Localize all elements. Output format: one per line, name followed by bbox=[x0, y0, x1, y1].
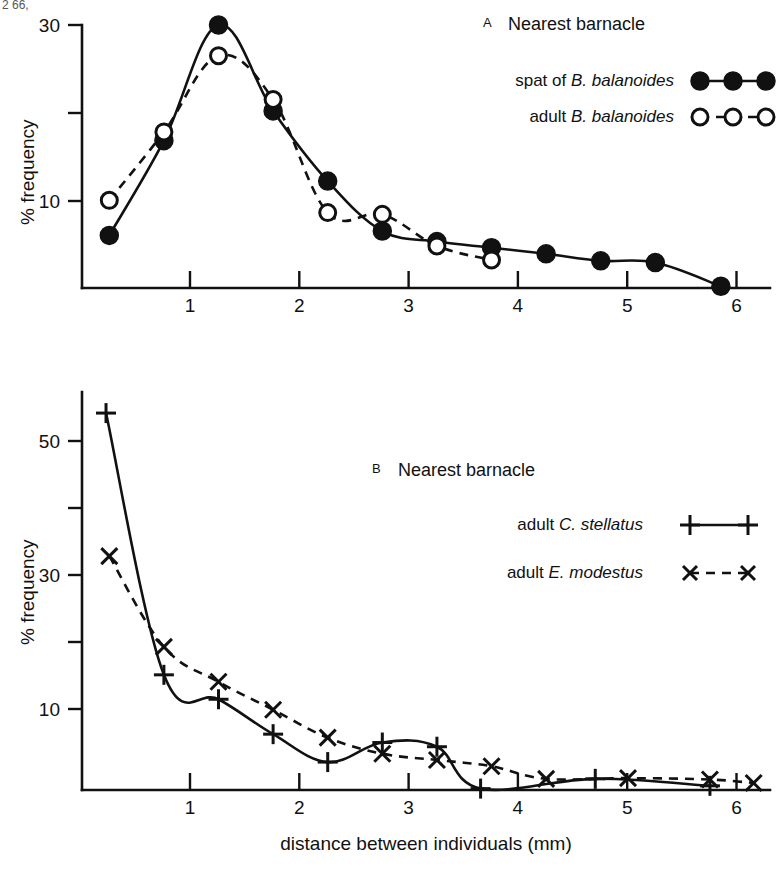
data-point-cross bbox=[156, 639, 172, 655]
data-point-filled-circle bbox=[537, 245, 555, 263]
panel-b-legend-label-0: adult C. stellatus bbox=[517, 515, 643, 534]
data-point-plus bbox=[318, 752, 338, 772]
data-point-open-circle bbox=[484, 252, 500, 268]
figure-svg: 2 66, 30 10 % frequency 1 2 3 bbox=[0, 0, 784, 873]
panel-a-xticklabel-4: 4 bbox=[513, 295, 524, 316]
data-point-plus bbox=[209, 689, 229, 709]
panel-a-xticklabel-3: 3 bbox=[403, 295, 414, 316]
panel-b-xticklabel-1: 1 bbox=[185, 797, 196, 818]
panel-a-legend-label-1: adult B. balanoides bbox=[529, 107, 674, 126]
data-point-plus bbox=[263, 724, 283, 744]
data-point-open-circle bbox=[374, 206, 390, 222]
panel-b-xticklabel-2: 2 bbox=[294, 797, 305, 818]
data-point-plus bbox=[372, 733, 392, 753]
panel-b-xticklabel-5: 5 bbox=[622, 797, 633, 818]
panel-a: 30 10 % frequency 1 2 3 4 5 6 A Nearest … bbox=[17, 14, 775, 316]
series-line-solid bbox=[109, 25, 721, 287]
data-point-filled-circle bbox=[319, 172, 337, 190]
data-point-cross bbox=[265, 702, 281, 718]
panel-a-yticklabel-30: 30 bbox=[39, 15, 60, 36]
panel-a-xticklabel-1: 1 bbox=[185, 295, 196, 316]
data-point-filled-circle bbox=[210, 16, 228, 34]
panel-b-x-axis-title: distance between individuals (mm) bbox=[280, 833, 571, 854]
data-point-open-circle bbox=[320, 205, 336, 221]
data-point-filled-circle bbox=[100, 226, 118, 244]
series-a-0 bbox=[100, 16, 730, 295]
data-point-open-circle bbox=[101, 192, 117, 208]
panel-b: 50 30 10 % frequency 1 2 3 4 5 6 distanc… bbox=[17, 392, 770, 854]
data-point-open-circle bbox=[156, 124, 172, 140]
panel-a-title: Nearest barnacle bbox=[508, 14, 645, 34]
figure-container: 2 66, 30 10 % frequency 1 2 3 bbox=[0, 0, 784, 873]
panel-a-xticklabel-5: 5 bbox=[622, 295, 633, 316]
data-point-cross bbox=[101, 548, 117, 564]
panel-b-xticklabel-4: 4 bbox=[513, 797, 524, 818]
data-point-cross bbox=[211, 674, 227, 690]
panel-b-legend: adult C. stellatus adult E. modestus bbox=[507, 515, 758, 582]
panel-a-legend: spat of B. balanoides adult B. balanoide… bbox=[515, 71, 775, 126]
panel-a-legend-swatch-filled-circle bbox=[691, 72, 775, 90]
data-point-plus bbox=[471, 779, 491, 799]
panel-a-xticklabel-2: 2 bbox=[294, 295, 305, 316]
panel-b-legend-swatch-plus bbox=[680, 515, 758, 535]
panel-b-legend-swatch-cross bbox=[683, 566, 755, 580]
panel-a-legend-swatch-open-circle bbox=[692, 109, 774, 125]
panel-b-yticklabel-10: 10 bbox=[39, 699, 60, 720]
data-point-filled-circle bbox=[712, 277, 730, 295]
data-point-open-circle bbox=[211, 48, 227, 64]
panel-a-yticklabel-10: 10 bbox=[39, 191, 60, 212]
data-point-cross bbox=[746, 775, 762, 791]
data-point-open-circle bbox=[429, 238, 445, 254]
panel-b-yticklabel-50: 50 bbox=[39, 431, 60, 452]
panel-a-letter: A bbox=[483, 15, 492, 30]
panel-a-series-layer bbox=[100, 16, 730, 295]
data-point-filled-circle bbox=[646, 254, 664, 272]
series-line-dashed bbox=[109, 556, 753, 783]
panel-a-legend-label-0: spat of B. balanoides bbox=[515, 71, 674, 90]
panel-b-legend-label-1: adult E. modestus bbox=[507, 563, 644, 582]
panel-a-xticklabel-6: 6 bbox=[731, 295, 742, 316]
panel-b-title: Nearest barnacle bbox=[398, 460, 535, 480]
panel-b-yticklabel-30: 30 bbox=[39, 565, 60, 586]
series-line-dashed bbox=[109, 55, 491, 260]
series-b-1 bbox=[101, 548, 761, 791]
panel-b-xticklabel-6: 6 bbox=[731, 797, 742, 818]
data-point-filled-circle bbox=[592, 252, 610, 270]
panel-b-letter: B bbox=[372, 461, 381, 476]
panel-a-y-axis-title: % frequency bbox=[17, 119, 38, 225]
top-cropped-text: 2 66, bbox=[2, 0, 29, 12]
data-point-plus bbox=[154, 665, 174, 685]
panel-b-xticklabel-3: 3 bbox=[403, 797, 414, 818]
data-point-plus bbox=[96, 403, 116, 423]
data-point-open-circle bbox=[265, 92, 281, 108]
data-point-cross bbox=[320, 730, 336, 746]
panel-b-y-axis-title: % frequency bbox=[17, 539, 38, 645]
data-point-filled-circle bbox=[373, 222, 391, 240]
